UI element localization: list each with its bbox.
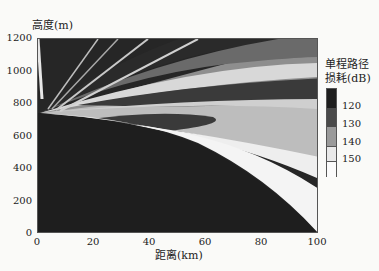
loss-heatmap [38, 39, 318, 233]
colorbar-level-5 [327, 161, 336, 177]
x-tick-20: 20 [78, 236, 108, 247]
x-tick-100: 100 [302, 236, 332, 247]
colorbar-level-4 [327, 146, 336, 162]
y-tick-1200: 1200 [2, 32, 32, 43]
colorbar-title-line1: 单程路径 [325, 58, 371, 72]
x-tick-80: 80 [246, 236, 276, 247]
y-tick-800: 800 [2, 97, 32, 108]
y-tick-600: 600 [2, 130, 32, 141]
y-tick-200: 200 [2, 195, 32, 206]
colorbar-level-1 [327, 89, 336, 108]
x-tick-0: 0 [22, 236, 52, 247]
y-tick-400: 400 [2, 162, 32, 173]
x-axis-label: 距离(km) [155, 246, 203, 262]
colorbar-level-3 [327, 127, 336, 146]
colorbar-title-line2: 损耗(dB) [325, 72, 371, 86]
y-axis-label: 高度(m) [32, 16, 73, 32]
colorbar-tick-150: 150 [342, 153, 361, 164]
colorbar-tick-130: 130 [342, 118, 361, 129]
colorbar-title: 单程路径 损耗(dB) [325, 58, 371, 86]
colorbar-tick-140: 140 [342, 136, 361, 147]
colorbar [326, 88, 337, 177]
colorbar-level-2 [327, 108, 336, 127]
colorbar-tick-120: 120 [342, 100, 361, 111]
y-tick-1000: 1000 [2, 65, 32, 76]
plot-area [37, 38, 318, 233]
